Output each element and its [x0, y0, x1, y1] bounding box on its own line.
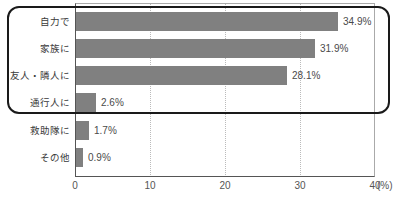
- axis-unit-label: (%): [377, 180, 393, 191]
- xtick-label-10: 10: [130, 180, 170, 191]
- bar: [76, 121, 89, 140]
- category-label: 友人・隣人に: [0, 66, 70, 85]
- bar: [76, 148, 83, 167]
- category-label: 家族に: [0, 39, 70, 58]
- bar-value-label: 2.6%: [96, 93, 124, 112]
- xtick-label-30: 30: [280, 180, 320, 191]
- bar: [76, 39, 315, 58]
- bar-value-label: 28.1%: [287, 66, 320, 85]
- bar: [76, 12, 338, 31]
- xtick-label-20: 20: [205, 180, 245, 191]
- bar-value-label: 0.9%: [83, 148, 111, 167]
- category-label: その他: [0, 148, 70, 167]
- bar: [76, 66, 287, 85]
- bar-row: 自力で 34.9%: [0, 12, 401, 31]
- category-label: 自力で: [0, 12, 70, 31]
- category-label: 通行人に: [0, 93, 70, 112]
- bar-row: 通行人に 2.6%: [0, 93, 401, 112]
- bar-value-label: 34.9%: [338, 12, 371, 31]
- bar-chart: 自力で 34.9% 家族に 31.9% 友人・隣人に 28.1% 通行人に 2.…: [0, 0, 401, 202]
- bar-row: その他 0.9%: [0, 148, 401, 167]
- bar-row: 救助隊に 1.7%: [0, 121, 401, 140]
- bar: [76, 93, 96, 112]
- xtick-label-0: 0: [55, 180, 95, 191]
- category-label: 救助隊に: [0, 121, 70, 140]
- bar-value-label: 1.7%: [89, 121, 117, 140]
- bar-value-label: 31.9%: [315, 39, 348, 58]
- bar-row: 友人・隣人に 28.1%: [0, 66, 401, 85]
- bar-row: 家族に 31.9%: [0, 39, 401, 58]
